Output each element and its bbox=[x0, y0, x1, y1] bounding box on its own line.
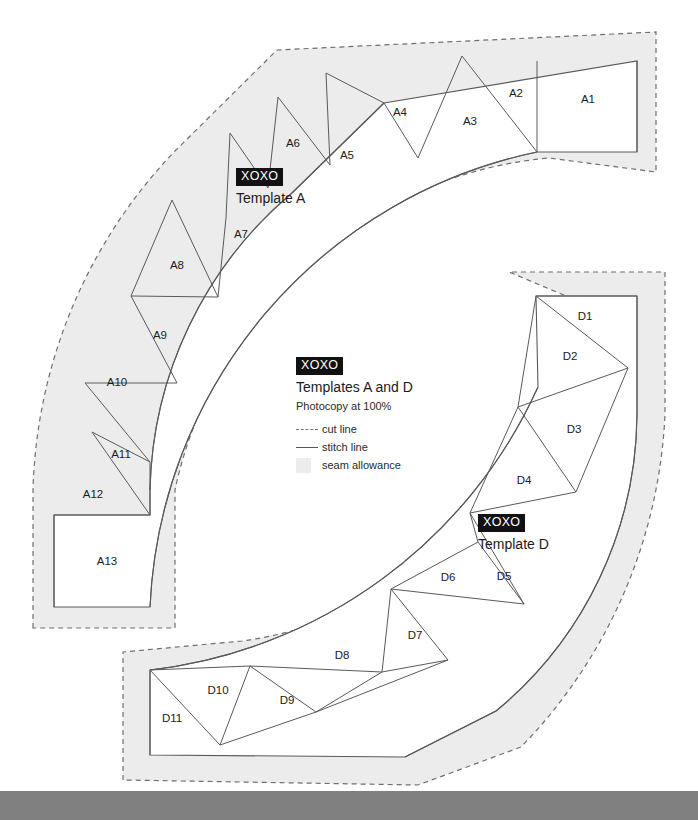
seam-allowance-swatch-icon bbox=[296, 458, 311, 473]
template-a-brand-badge: XOXO bbox=[236, 168, 283, 186]
piece-label-a11: A11 bbox=[111, 448, 131, 460]
piece-label-d2: D2 bbox=[563, 350, 578, 362]
piece-label-d3: D3 bbox=[567, 423, 582, 435]
legend-label-seam-allowance: seam allowance bbox=[322, 458, 401, 472]
piece-label-a13: A13 bbox=[97, 555, 117, 567]
piece-label-a8: A8 bbox=[170, 259, 184, 271]
bottom-gray-bar bbox=[0, 791, 698, 820]
template-a-title: Template A bbox=[236, 190, 305, 207]
legend-subtitle: Photocopy at 100% bbox=[296, 399, 466, 413]
piece-label-a2: A2 bbox=[509, 87, 523, 99]
template-d-title: Template D bbox=[478, 536, 549, 553]
piece-label-a10: A10 bbox=[107, 376, 127, 388]
piece-label-d8: D8 bbox=[335, 649, 350, 661]
legend-brand-badge: XOXO bbox=[296, 357, 343, 375]
piece-label-a12: A12 bbox=[83, 488, 103, 500]
piece-label-d4: D4 bbox=[517, 474, 532, 486]
stitch-line-swatch-icon bbox=[296, 447, 318, 448]
legend-row-seam-allowance: seam allowance bbox=[296, 456, 466, 474]
legend-row-stitch-line: stitch line bbox=[296, 438, 466, 456]
legend: XOXO Templates A and D Photocopy at 100%… bbox=[296, 355, 466, 474]
piece-label-d5: D5 bbox=[497, 570, 512, 582]
template-a-name-block: XOXO Template A bbox=[236, 166, 305, 207]
piece-label-a7: A7 bbox=[234, 228, 248, 240]
template-sheet: A1A2A3A4A5A6A7A8A9A10A11A12A13 bbox=[0, 0, 698, 820]
piece-label-a9: A9 bbox=[153, 329, 167, 341]
piece-label-a3: A3 bbox=[463, 115, 477, 127]
piece-label-a6: A6 bbox=[286, 137, 300, 149]
legend-title: Templates A and D bbox=[296, 379, 466, 396]
piece-label-d7: D7 bbox=[408, 629, 423, 641]
piece-label-d6: D6 bbox=[441, 571, 456, 583]
cut-line-swatch-icon bbox=[296, 429, 318, 430]
piece-label-a1: A1 bbox=[581, 93, 595, 105]
piece-label-d9: D9 bbox=[280, 694, 295, 706]
piece-label-d1: D1 bbox=[578, 310, 593, 322]
piece-label-d10: D10 bbox=[207, 684, 228, 696]
legend-row-cut-line: cut line bbox=[296, 420, 466, 438]
legend-rows: cut linestitch lineseam allowance bbox=[296, 420, 466, 474]
piece-label-a4: A4 bbox=[393, 106, 408, 118]
template-d-name-block: XOXO Template D bbox=[478, 512, 549, 553]
template-d-brand-badge: XOXO bbox=[478, 514, 525, 532]
piece-label-a5: A5 bbox=[340, 149, 354, 161]
legend-label-cut-line: cut line bbox=[322, 422, 357, 436]
piece-label-d11: D11 bbox=[162, 712, 182, 724]
legend-label-stitch-line: stitch line bbox=[322, 440, 368, 454]
